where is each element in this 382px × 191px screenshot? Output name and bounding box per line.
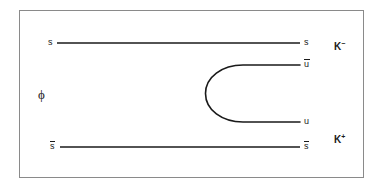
phi-meson-label: ϕ	[38, 88, 45, 101]
quark-line-diagram-canvas	[0, 0, 382, 191]
sbar-antiquark-left-label-text: s	[50, 141, 55, 151]
overbar-rule	[50, 141, 56, 142]
ubar-antiquark-label-text: u	[304, 59, 309, 69]
overbar-rule	[304, 59, 310, 60]
sbar-antiquark-left-label: s	[50, 142, 55, 151]
k-minus-meson-label: K−	[334, 42, 345, 52]
k-minus-charge: −	[341, 40, 345, 47]
u-quark-label: u	[304, 117, 309, 126]
figure-frame-border	[20, 11, 364, 178]
k-plus-charge: +	[341, 133, 345, 140]
s-quark-right-label: s	[304, 38, 309, 47]
sbar-antiquark-right-label: s	[304, 142, 309, 151]
k-plus-meson-label: K+	[334, 135, 345, 145]
ubar-antiquark-label: u	[304, 60, 309, 69]
sbar-antiquark-right-label-text: s	[304, 141, 309, 151]
overbar-rule	[304, 141, 310, 142]
s-quark-left-label: s	[48, 38, 53, 47]
figure-root: ϕ s s u u s s K− K+	[0, 0, 382, 191]
